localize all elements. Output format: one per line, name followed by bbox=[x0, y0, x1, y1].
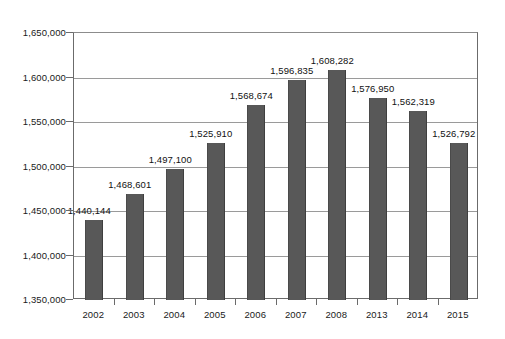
y-axis-tick-label: 1,650,000 bbox=[23, 27, 66, 38]
bar-value-label: 1,608,282 bbox=[311, 55, 354, 66]
x-axis-tick bbox=[195, 299, 196, 305]
bar-value-label: 1,576,950 bbox=[351, 83, 394, 94]
x-axis-tick-label: 2004 bbox=[163, 309, 185, 320]
y-axis-tick bbox=[66, 77, 73, 78]
y-axis-tick bbox=[66, 299, 73, 300]
x-axis-tick-label: 2006 bbox=[244, 309, 266, 320]
bar bbox=[450, 143, 468, 300]
y-axis-tick-label: 1,350,000 bbox=[23, 294, 66, 305]
y-axis-tick bbox=[66, 32, 73, 33]
y-axis-tick bbox=[66, 121, 73, 122]
bar bbox=[166, 169, 184, 300]
x-axis-tick bbox=[397, 299, 398, 305]
gridline bbox=[74, 78, 477, 79]
y-axis-tick bbox=[66, 255, 73, 256]
x-axis-tick bbox=[438, 299, 439, 305]
x-axis-tick bbox=[114, 299, 115, 305]
bar-chart: 1,350,0001,400,0001,450,0001,500,0001,55… bbox=[0, 0, 505, 339]
x-axis-tick-label: 2008 bbox=[325, 309, 347, 320]
y-axis-tick-label: 1,400,000 bbox=[23, 249, 66, 260]
y-axis-tick bbox=[66, 210, 73, 211]
bar-value-label: 1,562,319 bbox=[392, 96, 435, 107]
y-axis: 1,350,0001,400,0001,450,0001,500,0001,55… bbox=[0, 0, 66, 339]
y-axis-tick-label: 1,500,000 bbox=[23, 160, 66, 171]
bar bbox=[207, 143, 225, 300]
x-axis-tick-label: 2002 bbox=[82, 309, 104, 320]
y-axis-tick-label: 1,600,000 bbox=[23, 71, 66, 82]
x-axis-tick bbox=[316, 299, 317, 305]
x-axis-tick-label: 2013 bbox=[366, 309, 388, 320]
y-axis-tick-label: 1,450,000 bbox=[23, 205, 66, 216]
bar-value-label: 1,568,674 bbox=[230, 90, 273, 101]
x-axis-tick bbox=[154, 299, 155, 305]
bar-value-label: 1,497,100 bbox=[149, 154, 192, 165]
bar bbox=[409, 111, 427, 300]
bar-value-label: 1,468,601 bbox=[108, 179, 151, 190]
x-axis-tick-label: 2015 bbox=[447, 309, 469, 320]
y-axis-tick-label: 1,550,000 bbox=[23, 116, 66, 127]
x-axis-tick-label: 2005 bbox=[204, 309, 226, 320]
x-axis-tick-label: 2014 bbox=[406, 309, 428, 320]
x-axis-tick-label: 2003 bbox=[123, 309, 145, 320]
bar-value-label: 1,525,910 bbox=[189, 128, 232, 139]
bar-value-label: 1,440,144 bbox=[68, 205, 111, 216]
bar bbox=[85, 220, 103, 300]
bar bbox=[247, 105, 265, 300]
x-axis-tick-label: 2007 bbox=[285, 309, 307, 320]
bar bbox=[126, 194, 144, 300]
bar-value-label: 1,596,835 bbox=[270, 65, 313, 76]
x-axis-tick bbox=[235, 299, 236, 305]
y-axis-tick bbox=[66, 166, 73, 167]
x-axis-tick bbox=[357, 299, 358, 305]
bar bbox=[328, 70, 346, 300]
bar-value-label: 1,526,792 bbox=[432, 128, 475, 139]
bar bbox=[369, 98, 387, 300]
bar bbox=[288, 80, 306, 300]
x-axis-tick bbox=[276, 299, 277, 305]
